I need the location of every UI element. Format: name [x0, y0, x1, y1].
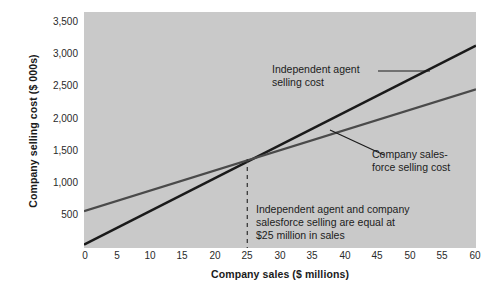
x-tick-35: 35	[297, 250, 327, 261]
x-axis-title: Company sales ($ millions)	[84, 268, 476, 280]
x-tick-0: 0	[70, 250, 100, 261]
x-tick-55: 55	[427, 250, 457, 261]
x-tick-40: 40	[330, 250, 360, 261]
x-tick-25: 25	[232, 250, 262, 261]
annotation-company-salesforce: Company sales- force selling cost	[372, 148, 450, 174]
annotation-independent-agent: Independent agent selling cost	[272, 63, 360, 89]
x-tick-45: 45	[362, 250, 392, 261]
x-tick-60: 60	[460, 250, 490, 261]
x-tick-10: 10	[135, 250, 165, 261]
x-tick-30: 30	[265, 250, 295, 261]
x-tick-20: 20	[200, 250, 230, 261]
annotation-equal-point: Independent agent and company salesforce…	[256, 203, 410, 242]
x-tick-5: 5	[102, 250, 132, 261]
chart-figure: Company selling cost ($ 000s) 3,500 3,00…	[0, 0, 503, 298]
x-tick-15: 15	[167, 250, 197, 261]
x-tick-50: 50	[395, 250, 425, 261]
